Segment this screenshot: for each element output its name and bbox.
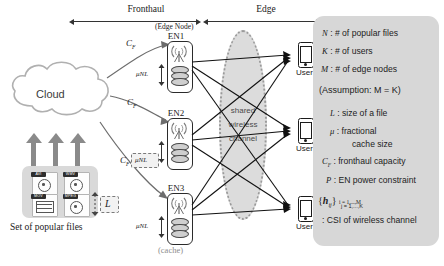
legend-sep-L: : — [337, 108, 339, 118]
legend-sep-M: : — [331, 64, 333, 74]
legend-sep-CSI: : — [322, 215, 324, 225]
legend-sep-P: : — [334, 175, 336, 185]
legend-h-index-bottom: j = 1,...,K — [341, 203, 363, 209]
user-phone-screen-2 — [300, 122, 312, 139]
user-phone-screen-1 — [300, 46, 312, 63]
legend-row-M: M : # of edge nodes — [321, 64, 397, 74]
legend-sep-K: : — [330, 46, 332, 56]
legend-text-P: EN power constraint — [338, 175, 415, 185]
legend-row-L: L : size of a file — [330, 108, 387, 118]
legend-text-CSI: CSI of wireless channel — [327, 215, 417, 225]
legend-row-CF: CF : fronthaul capacity — [322, 156, 406, 168]
legend-symbol-L: L — [330, 108, 335, 118]
legend-symbol-P: P — [326, 175, 331, 185]
legend-text-N: # of popular files — [335, 28, 398, 38]
legend-row-N: N : # of popular files — [322, 28, 398, 38]
legend-symbol-M: M — [321, 64, 328, 74]
legend-row-K: K : # of users — [322, 46, 373, 56]
legend-sep-CF: : — [333, 156, 335, 166]
legend-sep-N: : — [330, 28, 332, 38]
user-phone-button-3 — [304, 217, 307, 220]
legend-text-M: # of edge nodes — [335, 64, 397, 74]
user-phone-screen-3 — [300, 200, 312, 217]
legend-text-K: # of users — [335, 46, 373, 56]
legend-row-P: P : EN power constraint — [326, 175, 416, 185]
legend-row-mu: μ : fractional — [330, 126, 376, 136]
legend-symbol-CF: CF — [322, 156, 331, 166]
legend-symbol-h: {hij} — [318, 195, 337, 206]
legend-text-CF: fronthaul capacity — [338, 156, 405, 166]
user-phone-button-2 — [304, 139, 307, 142]
user-phone-button-1 — [304, 63, 307, 66]
legend-symbol-mu: μ — [330, 126, 334, 136]
legend-sep-mu: : — [337, 126, 339, 136]
legend-text-mu: fractional — [342, 126, 377, 136]
legend-text-L: size of a file — [342, 108, 387, 118]
legend-symbol-K: K — [322, 46, 328, 56]
legend-row-assumption: (Assumption: M = K) — [319, 85, 401, 95]
legend-symbol-N: N — [322, 28, 328, 38]
legend-row-mu-cont: cache size — [352, 139, 393, 149]
legend-row-CSI: : CSI of wireless channel — [322, 215, 417, 225]
